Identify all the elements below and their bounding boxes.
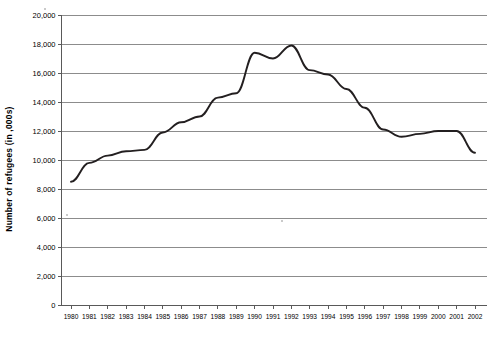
x-tick-label: 1993 — [302, 313, 317, 320]
x-tick-label: 1991 — [266, 313, 281, 320]
y-tick-label: 8,000 — [37, 185, 56, 194]
y-tick-label: 6,000 — [37, 214, 56, 223]
y-axis-tick-labels: 02,0004,0006,0008,00010,00012,00014,0001… — [33, 11, 56, 310]
y-tick-label: 14,000 — [33, 98, 56, 107]
x-tick-label: 1981 — [82, 313, 97, 320]
x-tick-label: 1980 — [64, 313, 79, 320]
x-tick-label: 1997 — [376, 313, 391, 320]
x-tick-label: 1995 — [339, 313, 354, 320]
y-tick-label: 0 — [51, 301, 55, 310]
x-tick-label: 1986 — [174, 313, 189, 320]
x-tick-label: 1988 — [211, 313, 226, 320]
x-tick-label: 1984 — [137, 313, 152, 320]
y-tick-label: 10,000 — [33, 156, 56, 165]
y-tick-label: 2,000 — [37, 272, 56, 281]
x-tick-label: 1992 — [284, 313, 299, 320]
y-tick-label: 20,000 — [33, 11, 56, 20]
x-tick-label: 1989 — [229, 313, 244, 320]
x-tick-label: 1985 — [155, 313, 170, 320]
x-tick-label: 1994 — [321, 313, 336, 320]
x-tick-label: 2002 — [468, 313, 483, 320]
x-tick-label: 1982 — [100, 313, 115, 320]
plot-area: 02,0004,0006,0008,00010,00012,00014,0001… — [0, 0, 502, 338]
x-tick-label: 1987 — [192, 313, 207, 320]
x-tick-label: 1996 — [357, 313, 372, 320]
y-tick-label: 18,000 — [33, 40, 56, 49]
x-tick-label: 2000 — [431, 313, 446, 320]
refugees-line-series — [71, 45, 475, 181]
y-tick-label: 12,000 — [33, 127, 56, 136]
x-tick-label: 1990 — [247, 313, 262, 320]
y-tick-label: 16,000 — [33, 69, 56, 78]
y-tick-label: 4,000 — [37, 243, 56, 252]
x-tick-label: 1983 — [119, 313, 134, 320]
x-tick-label: 1998 — [394, 313, 409, 320]
line-chart: Number of refugees (in ,000s) 02,0004,00… — [0, 0, 502, 338]
x-tick-label: 2001 — [449, 313, 464, 320]
x-axis-tick-labels: 1980198119821983198419851986198719881989… — [64, 313, 483, 320]
x-tick-label: 1999 — [413, 313, 428, 320]
